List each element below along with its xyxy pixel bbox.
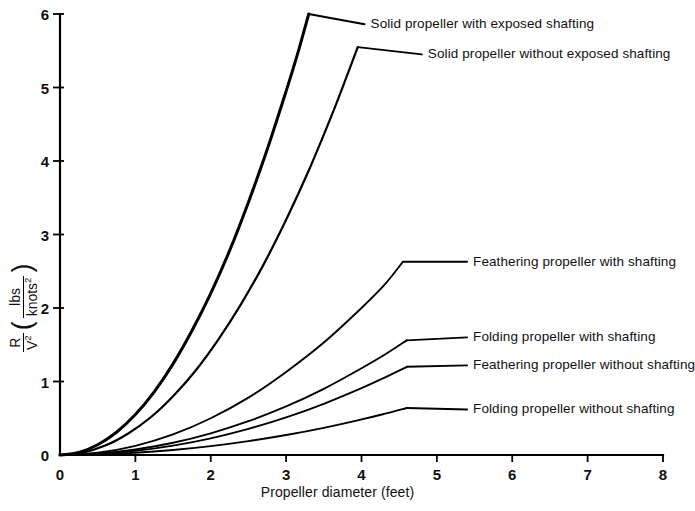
series-label-4: Feathering propeller without shafting	[473, 358, 695, 373]
x-tick-label: 1	[131, 467, 139, 482]
axes	[53, 14, 663, 462]
y-axis-ratio: R V2	[8, 333, 40, 352]
x-tick-label: 4	[357, 467, 365, 482]
curve-series-3	[60, 340, 407, 455]
leader-line-series-1	[358, 47, 422, 54]
y-tick-label: 4	[41, 154, 49, 169]
y-tick-label: 1	[41, 374, 49, 389]
label-leader-lines	[309, 14, 467, 409]
x-tick-label: 3	[282, 467, 290, 482]
open-paren: (	[11, 321, 34, 330]
y-axis-ratio-numerator: R	[8, 336, 23, 350]
leader-line-series-5	[407, 408, 467, 409]
leader-line-series-4	[407, 365, 467, 366]
x-tick-label: 0	[56, 467, 64, 482]
y-axis-units: lbs knots2	[8, 276, 40, 319]
x-tick-label: 8	[659, 467, 667, 482]
leader-line-series-3	[407, 337, 467, 340]
curve-series-5	[60, 408, 407, 455]
y-tick-label: 3	[41, 227, 49, 242]
close-paren: )	[11, 264, 34, 273]
y-axis-title: R V2 ( lbs knots2 )	[8, 264, 40, 352]
x-tick-label: 2	[207, 467, 215, 482]
curve-series-0	[60, 14, 309, 455]
y-tick-label: 2	[41, 301, 49, 316]
y-tick-label: 5	[41, 80, 49, 95]
series-label-5: Folding propeller without shafting	[473, 402, 675, 417]
x-tick-label: 5	[433, 467, 441, 482]
y-axis-units-numerator: lbs	[8, 286, 23, 308]
series-label-0: Solid propeller with exposed shafting	[371, 17, 595, 32]
series-label-3: Folding propeller with shafting	[473, 330, 655, 345]
series-label-1: Solid propeller without exposed shafting	[428, 47, 671, 62]
y-axis-ratio-denominator: V2	[23, 333, 39, 352]
x-tick-label: 6	[508, 467, 516, 482]
y-axis-units-denominator: knots2	[23, 276, 39, 319]
x-tick-label: 7	[583, 467, 591, 482]
leader-line-series-0	[309, 14, 365, 24]
y-tick-label: 6	[41, 7, 49, 22]
y-tick-label: 0	[41, 448, 49, 463]
x-axis-title: Propeller diameter (feet)	[0, 484, 675, 500]
data-curves	[60, 14, 407, 455]
y-axis-ticks	[53, 14, 64, 382]
series-label-2: Feathering propeller with shafting	[473, 254, 676, 269]
